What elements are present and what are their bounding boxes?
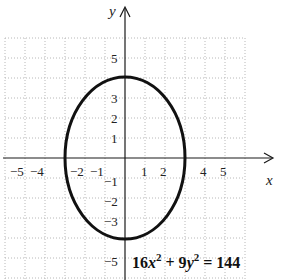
y-tick-label: 3 xyxy=(111,91,118,106)
y-tick-label: 2 xyxy=(111,111,118,126)
y-tick-label: −1 xyxy=(104,174,118,189)
x-tick-label: −4 xyxy=(30,164,44,179)
x-tick-label: −5 xyxy=(10,164,24,179)
x-tick-label: 5 xyxy=(220,164,227,179)
x-axis-label: x xyxy=(265,172,273,188)
x-tick-label: −1 xyxy=(90,164,104,179)
y-tick-label: −2 xyxy=(104,194,118,209)
y-tick-label: 1 xyxy=(111,131,118,146)
x-tick-label: 2 xyxy=(160,164,167,179)
y-axis-label: y xyxy=(107,3,116,19)
x-tick-label: 1 xyxy=(141,164,148,179)
y-tick-label: −3 xyxy=(104,214,118,229)
y-tick-label: −5 xyxy=(104,254,118,269)
y-tick-label: 5 xyxy=(111,51,118,66)
x-tick-label: 4 xyxy=(200,164,207,179)
x-tick-label: −2 xyxy=(70,164,84,179)
ellipse-graph: y x −5 −4 −2 −1 1 2 4 5 5 3 2 1 −1 −2 −3… xyxy=(0,0,283,280)
equation-label: 16x2 + 9y2 = 144 xyxy=(132,251,240,272)
x-axis xyxy=(3,153,273,163)
x-tick-labels: −5 −4 −2 −1 1 2 4 5 xyxy=(10,164,227,179)
